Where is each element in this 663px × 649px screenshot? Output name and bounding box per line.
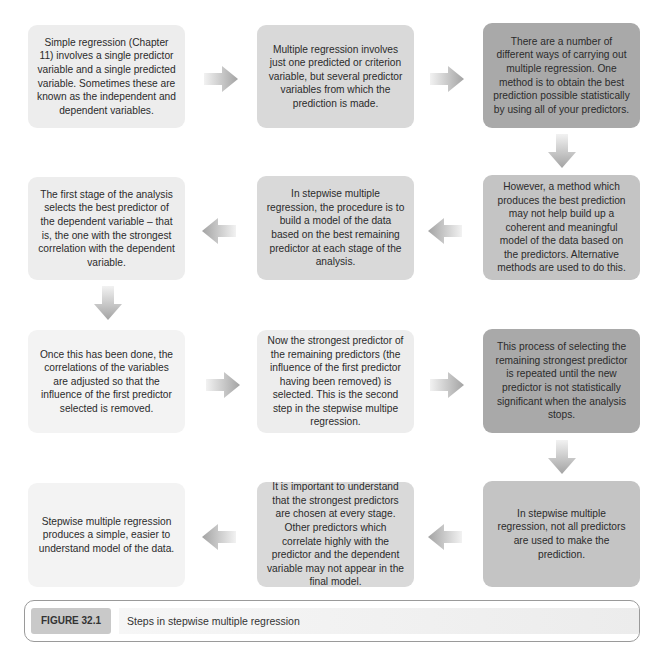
step-text: Multiple regression involves just one pr… [266, 43, 405, 111]
step-text: It is important to understand that the s… [266, 480, 405, 589]
step-text: However, a method which produces the bes… [492, 180, 631, 275]
arrow-right-icon [430, 66, 464, 92]
arrow-left-icon [428, 524, 462, 550]
flow-step-alternative-methods: However, a method which produces the bes… [483, 175, 640, 280]
figure-label: FIGURE 32.1 [31, 608, 111, 634]
flow-step-multiple-regression: Multiple regression involves just one pr… [257, 25, 414, 128]
arrow-down-icon [548, 440, 576, 474]
flow-step-strongest-predictors: It is important to understand that the s… [257, 482, 414, 587]
flow-step-not-all-predictors: In stepwise multiple regression, not all… [483, 481, 640, 587]
step-text: Simple regression (Chapter 11) involves … [37, 36, 176, 118]
arrow-left-icon [428, 218, 462, 244]
step-text: In stepwise multiple regression, not all… [492, 507, 631, 561]
step-text: The first stage of the analysis selects … [37, 188, 176, 270]
flow-step-simple-model: Stepwise multiple regression produces a … [28, 483, 185, 587]
step-text: This process of selecting the remaining … [492, 340, 631, 422]
figure-caption: FIGURE 32.1 Steps in stepwise multiple r… [24, 600, 640, 642]
figure-title: Steps in stepwise multiple regression [119, 608, 639, 634]
flow-step-methods: There are a number of different ways of … [483, 23, 640, 128]
arrow-left-icon [202, 524, 236, 550]
arrow-right-icon [430, 372, 464, 398]
arrow-down-icon [548, 134, 576, 168]
arrow-down-icon [94, 286, 122, 320]
arrow-left-icon [202, 218, 236, 244]
step-text: There are a number of different ways of … [492, 35, 631, 117]
arrow-right-icon [206, 372, 240, 398]
flow-step-first-stage: The first stage of the analysis selects … [28, 177, 185, 280]
flow-step-adjust-correlations: Once this has been done, the correlation… [28, 330, 185, 433]
flow-step-simple-regression: Simple regression (Chapter 11) involves … [28, 25, 185, 128]
step-text: Now the strongest predictor of the remai… [266, 334, 405, 429]
flow-step-repeat-process: This process of selecting the remaining … [483, 329, 640, 433]
step-text: In stepwise multiple regression, the pro… [266, 187, 405, 269]
flow-step-second-predictor: Now the strongest predictor of the remai… [257, 330, 414, 433]
arrow-right-icon [204, 66, 238, 92]
step-text: Stepwise multiple regression produces a … [37, 515, 176, 556]
step-text: Once this has been done, the correlation… [37, 348, 176, 416]
flow-step-stepwise-procedure: In stepwise multiple regression, the pro… [257, 176, 414, 280]
